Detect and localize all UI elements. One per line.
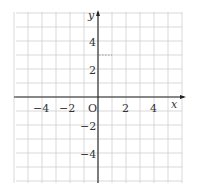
y-tick-label: −4 [80, 148, 96, 161]
y-tick-label: 4 [89, 36, 96, 49]
y-axis-label: y [87, 9, 95, 22]
y-tick-label: −2 [80, 120, 96, 133]
x-axis-arrow-icon [180, 95, 186, 99]
x-tick-label: −2 [59, 102, 75, 115]
x-tick-label: 4 [150, 102, 157, 115]
x-axis-label: x [171, 98, 178, 111]
y-tick-label: 2 [89, 64, 96, 77]
coordinate-plane: y x O −4 −2 2 4 4 2 −2 −4 [0, 0, 204, 193]
origin-label: O [88, 102, 97, 115]
x-tick-label: 2 [122, 102, 129, 115]
x-tick-label: −4 [33, 102, 49, 115]
